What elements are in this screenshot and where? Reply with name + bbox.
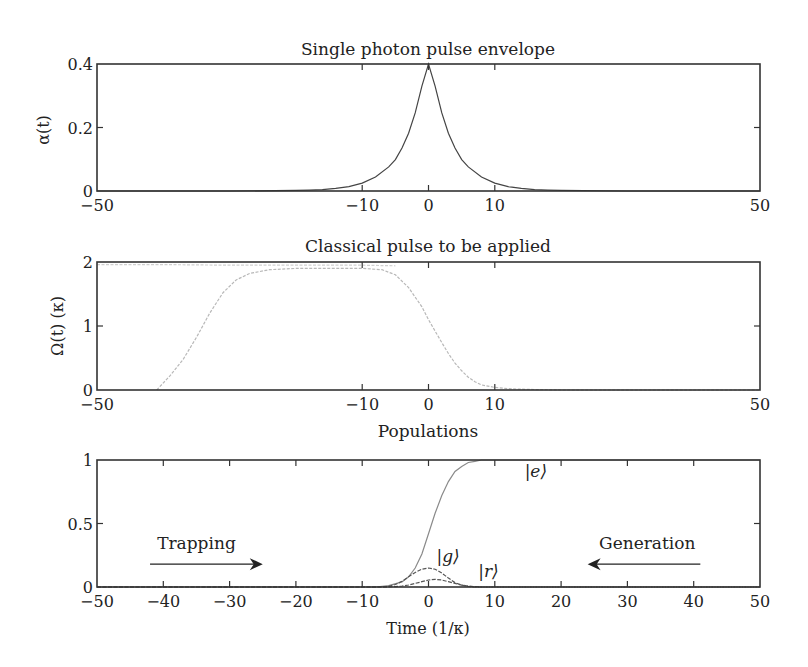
y-tick-label: 0.5 xyxy=(68,515,93,534)
annotations: |e⟩|g⟩|r⟩TrappingGeneration xyxy=(150,461,700,581)
y-tick-label: 0.4 xyxy=(68,55,93,74)
x-tick-label: 10 xyxy=(485,196,505,215)
panel-populations: Populations −50−40−30−20−100102030405000… xyxy=(68,421,771,638)
generation-arrow-icon xyxy=(588,558,701,570)
label-r-annotation: |r⟩ xyxy=(478,561,499,581)
y-tick-label: 0 xyxy=(83,381,93,400)
y-axis-label: Ω(t) (κ) xyxy=(48,296,67,356)
x-tick-label: 40 xyxy=(684,592,704,611)
x-tick-label: 20 xyxy=(551,592,571,611)
figure: Single photon pulse envelope −50−1001050… xyxy=(0,0,808,667)
y-tick-label: 0 xyxy=(83,578,93,597)
label-g-annotation: |g⟩ xyxy=(436,546,459,566)
series-layer xyxy=(97,64,760,191)
panel-title: Single photon pulse envelope xyxy=(301,39,555,59)
series-layer xyxy=(97,460,760,587)
y-tick-label: 2 xyxy=(83,253,93,272)
axes-frame xyxy=(97,64,760,191)
x-tick-label: −10 xyxy=(345,196,379,215)
x-tick-label: 50 xyxy=(750,196,770,215)
y-tick-label: 1 xyxy=(83,451,93,470)
series-line xyxy=(157,268,760,390)
x-tick-label: −20 xyxy=(279,592,313,611)
x-axis-label: Time (1/κ) xyxy=(386,619,470,638)
y-tick-label: 1 xyxy=(83,317,93,336)
trapping-arrow-icon xyxy=(150,558,263,570)
x-tick-label: −10 xyxy=(345,592,379,611)
y-tick-label: 0.2 xyxy=(68,119,93,138)
x-tick-label: −10 xyxy=(345,395,379,414)
x-tick-label: 30 xyxy=(617,592,637,611)
series-line xyxy=(97,265,395,266)
series-line xyxy=(97,64,760,191)
panel-classical: Classical pulse to be applied −50−100105… xyxy=(48,236,770,414)
x-tick-label: 0 xyxy=(423,395,433,414)
x-tick-label: 10 xyxy=(485,395,505,414)
panel-title: Populations xyxy=(378,421,479,441)
x-tick-label: 0 xyxy=(423,196,433,215)
panel-envelope: Single photon pulse envelope −50−1001050… xyxy=(34,39,770,215)
x-tick-label: −30 xyxy=(213,592,247,611)
trapping-annotation: Trapping xyxy=(157,533,236,553)
x-tick-label: 10 xyxy=(485,592,505,611)
x-tick-label: −40 xyxy=(146,592,180,611)
x-tick-label: 50 xyxy=(750,592,770,611)
x-tick-label: 0 xyxy=(423,592,433,611)
axes-frame xyxy=(97,262,760,390)
generation-annotation: Generation xyxy=(599,533,695,553)
series-layer xyxy=(97,265,760,390)
x-tick-label: 50 xyxy=(750,395,770,414)
y-tick-label: 0 xyxy=(83,182,93,201)
panel-title: Classical pulse to be applied xyxy=(305,236,551,256)
label-e-annotation: |e⟩ xyxy=(525,461,547,481)
y-axis-label: α(t) xyxy=(34,115,53,145)
